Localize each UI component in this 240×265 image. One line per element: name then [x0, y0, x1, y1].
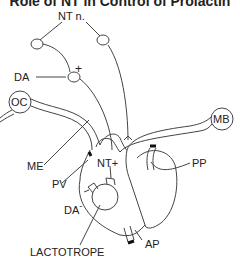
da-minus-text: DA: [64, 204, 79, 216]
label-oc: OC: [11, 96, 28, 108]
nt-nucleus-pointer-right: [86, 22, 100, 36]
lactotrope-pointer: [80, 205, 100, 245]
hypothalamus-pituitary-diagram: [0, 0, 240, 265]
nt-axon-to-da: [43, 44, 70, 72]
label-pv: PV: [52, 178, 67, 190]
label-ap: AP: [145, 238, 160, 250]
label-nt-plus: NT+: [97, 157, 118, 169]
nt-axon-to-me: [108, 45, 128, 140]
lactotrope-cell: [92, 184, 118, 210]
neuron-cell-left: [31, 39, 43, 49]
label-plus: +: [75, 62, 82, 76]
label-da: DA: [14, 71, 29, 83]
ap-vessel-end: [128, 241, 134, 243]
pp-pointer: [151, 162, 190, 170]
minus-sign: -: [79, 201, 82, 211]
label-nt-nucleus: NT n.: [58, 10, 85, 22]
me-pointer: [44, 120, 89, 165]
label-me: ME: [27, 160, 44, 172]
nt-nucleus-pointer-left: [40, 22, 62, 40]
label-pp: PP: [192, 157, 207, 169]
label-da-minus: DA-: [64, 201, 82, 216]
da-axon: [80, 79, 112, 150]
pv-vessel-end: [89, 152, 91, 156]
neuron-cell-right: [97, 35, 109, 45]
label-lactotrope: LACTOTROPE: [30, 246, 104, 258]
label-mb: MB: [213, 113, 230, 125]
